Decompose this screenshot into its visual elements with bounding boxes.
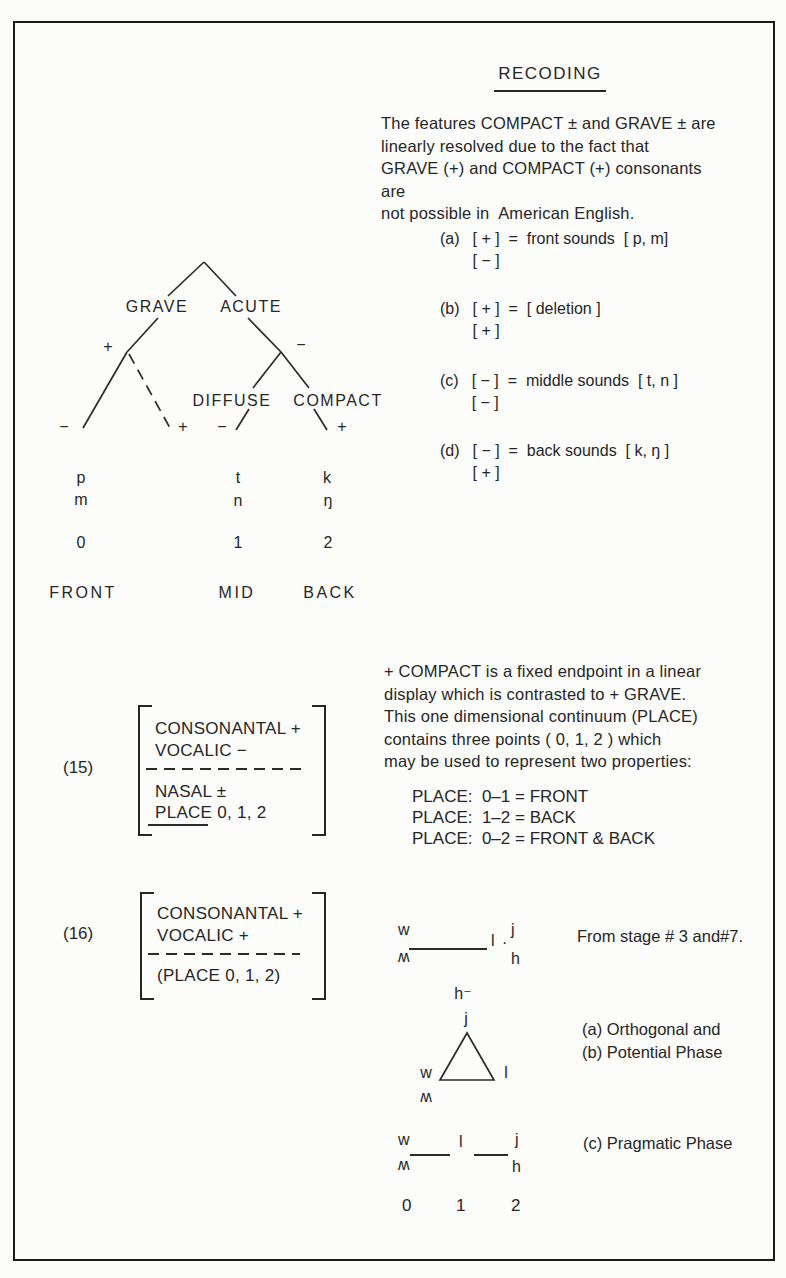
rule-item-c: (c) [ − ] = middle sounds [ t, n ] [ − ]	[440, 370, 678, 414]
glide-wh: ʍ	[398, 949, 410, 965]
phase-labels-ab: (a) Orthogonal and (b) Potential Phase	[582, 1018, 722, 1063]
compact-paragraph: + COMPACT is a fixed endpoint in a linea…	[384, 660, 744, 773]
tree-phoneme-n: n	[234, 492, 243, 509]
tree-sign-grave-left: −	[59, 418, 68, 435]
place-rules-list: PLACE: 0–1 = FRONT PLACE: 1–2 = BACK PLA…	[412, 786, 655, 849]
triangle-l: l	[504, 1064, 508, 1081]
bottom-scale-0: 0	[402, 1196, 411, 1216]
tree-scale-2: 2	[324, 534, 333, 551]
tree-sign-acute-node: −	[296, 336, 305, 353]
rule-label: (d)	[440, 440, 460, 484]
matrix-row: VOCALIC +	[157, 926, 249, 946]
glide-j: j	[515, 1132, 519, 1148]
tree-scale-1: 1	[234, 534, 243, 551]
rule-label: (c)	[440, 370, 459, 414]
matrix-left-bracket	[138, 705, 152, 836]
matrix-row: CONSONANTAL +	[157, 904, 303, 924]
glide-line	[409, 948, 487, 950]
tree-scale-0: 0	[77, 534, 86, 551]
rule-line: [ − ]	[472, 392, 678, 414]
triangle-w: w	[419, 1064, 432, 1081]
tree-branch-grave-dashed	[129, 354, 170, 428]
matrix-dashed-divider	[148, 953, 300, 955]
tree-sign-diffuse-leaf: −	[217, 418, 226, 435]
compact-paragraph-line: contains three points ( 0, 1, 2 ) which	[384, 728, 744, 751]
glide-l: l	[491, 933, 495, 949]
glide-l: l	[459, 1134, 463, 1150]
tree-branch-apex-left	[168, 262, 204, 296]
matrix-15-number: (15)	[63, 758, 93, 778]
tree-branch-to-diffuse	[253, 352, 281, 388]
page-title: RECODING	[455, 64, 645, 92]
bottom-scale-1: 1	[456, 1196, 465, 1216]
tree-position-back: BACK	[303, 584, 357, 601]
phase-label-c: (c) Pragmatic Phase	[583, 1132, 732, 1155]
matrix-right-bracket	[312, 705, 326, 836]
intro-line: not possible in American English.	[381, 202, 731, 225]
tree-position-front: FRONT	[49, 584, 117, 601]
tree-branch-grave-left	[83, 352, 127, 428]
triangle-phase-diagram: h⁻ j w ʍ l	[410, 975, 530, 1105]
glide-j: j	[511, 922, 515, 938]
place-rule: PLACE: 0–2 = FRONT & BACK	[412, 828, 655, 849]
matrix-15: CONSONANTAL + VOCALIC − NASAL ± PLACE 0,…	[138, 705, 326, 836]
tree-sign-compact-leaf: +	[337, 418, 346, 435]
place-rule: PLACE: 0–1 = FRONT	[412, 786, 655, 807]
tree-label-diffuse: DIFFUSE	[193, 392, 272, 409]
glide-wh: ʍ	[398, 1157, 410, 1173]
rule-item-a: (a) [ + ] = front sounds [ p, m] [ − ]	[440, 228, 668, 272]
matrix-row: NASAL ±	[155, 782, 226, 802]
rule-line: [ + ] = front sounds [ p, m]	[473, 228, 669, 250]
matrix-dashed-divider	[146, 768, 304, 770]
matrix-left-bracket	[140, 892, 154, 1000]
rule-line: [ − ] = middle sounds [ t, n ]	[472, 370, 678, 392]
stage-note: From stage # 3 and#7.	[577, 925, 743, 948]
rule-line: [ + ] = [ deletion ]	[473, 298, 601, 320]
tree-label-acute: ACUTE	[220, 298, 282, 315]
matrix-row: (PLACE 0, 1, 2)	[157, 966, 281, 986]
matrix-row: VOCALIC −	[155, 741, 247, 761]
matrix-place-underline	[148, 824, 208, 826]
tree-phoneme-m: m	[74, 491, 87, 508]
stage-glide-diagram: w ʍ l · j h	[396, 922, 526, 974]
tree-branch-acute-down	[248, 318, 281, 352]
tree-sign-grave-node: +	[103, 338, 112, 355]
tree-position-mid: MID	[219, 584, 256, 601]
pragmatic-phase-diagram: w l j ʍ h	[396, 1132, 531, 1178]
tree-branch-apex-right	[204, 262, 236, 296]
tree-branch-grave-down	[127, 318, 158, 352]
rule-line: [ + ]	[473, 462, 670, 484]
tree-branch-diffuse-leaf	[236, 409, 249, 430]
rule-line: [ − ]	[473, 250, 669, 272]
glide-line	[474, 1154, 508, 1156]
phase-label-b: (b) Potential Phase	[582, 1041, 722, 1064]
glide-h: h	[511, 951, 520, 967]
triangle-wh: ʍ	[420, 1088, 432, 1105]
feature-tree-diagram: GRAVE ACUTE + − + − DIFFUSE COMPACT − + …	[20, 240, 390, 620]
triangle-j: j	[463, 1010, 468, 1027]
glide-w: w	[398, 1132, 410, 1148]
tree-branch-to-compact	[281, 352, 309, 388]
compact-paragraph-line: + COMPACT is a fixed endpoint in a linea…	[384, 660, 744, 683]
rule-item-b: (b) [ + ] = [ deletion ] [ + ]	[440, 298, 601, 342]
place-rule: PLACE: 1–2 = BACK	[412, 807, 655, 828]
glide-w: w	[398, 922, 410, 938]
tree-phoneme-p: p	[77, 469, 86, 486]
compact-paragraph-line: display which is contrasted to + GRAVE.	[384, 683, 744, 706]
triangle-h: h⁻	[454, 985, 471, 1002]
intro-line: linearly resolved due to the fact that	[381, 135, 731, 158]
matrix-16: CONSONANTAL + VOCALIC + (PLACE 0, 1, 2)	[140, 892, 326, 1000]
rule-label: (b)	[440, 298, 460, 342]
matrix-16-number: (16)	[63, 924, 93, 944]
intro-line: GRAVE (+) and COMPACT (+) consonants are	[381, 157, 731, 202]
tree-branch-compact-leaf	[314, 409, 327, 430]
bottom-scale-2: 2	[511, 1196, 520, 1216]
glide-line	[410, 1154, 450, 1156]
scanned-document-page: RECODING The features COMPACT ± and GRAV…	[0, 0, 786, 1278]
intro-line: The features COMPACT ± and GRAVE ± are	[381, 112, 731, 135]
glide-h: h	[512, 1159, 521, 1175]
matrix-row: PLACE 0, 1, 2	[155, 803, 267, 823]
page-title-text: RECODING	[494, 64, 606, 92]
tree-label-grave: GRAVE	[126, 298, 188, 315]
rule-label: (a)	[440, 228, 460, 272]
